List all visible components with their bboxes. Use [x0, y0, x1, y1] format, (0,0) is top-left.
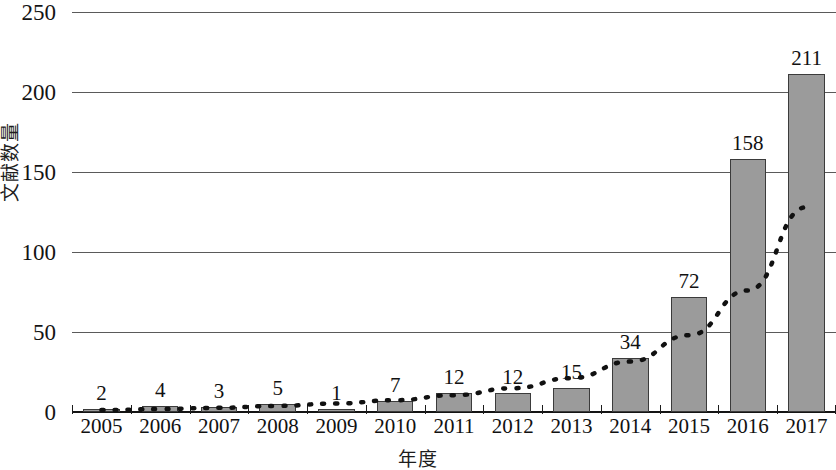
bar-value-label: 7 [366, 375, 425, 396]
bar-value-label: 3 [190, 381, 249, 402]
y-tick-label: 100 [0, 241, 56, 264]
bar-value-label: 211 [777, 48, 836, 69]
x-tick-label: 2010 [366, 416, 425, 437]
bar-value-label: 12 [483, 367, 542, 388]
x-tick-label: 2006 [131, 416, 190, 437]
x-tick-label: 2008 [248, 416, 307, 437]
plot-area: 2435171212153472158211 [72, 12, 836, 412]
bar-value-labels: 2435171212153472158211 [72, 12, 836, 412]
bar-value-label: 34 [601, 332, 660, 353]
x-tick-label: 2014 [601, 416, 660, 437]
x-axis-tick-labels: 2005200620072008200920102011201220132014… [72, 416, 836, 446]
bar-value-label: 72 [660, 271, 719, 292]
x-tick-label: 2015 [660, 416, 719, 437]
y-tick-label: 150 [0, 161, 56, 184]
bar-value-label: 15 [542, 362, 601, 383]
y-tick-label: 200 [0, 81, 56, 104]
x-tick-label: 2007 [190, 416, 249, 437]
y-tick-label: 250 [0, 1, 56, 24]
y-axis-tick-labels: 250200150100500 [0, 0, 56, 470]
bar-value-label: 12 [425, 367, 484, 388]
bar-value-label: 158 [718, 133, 777, 154]
y-tick-label: 50 [0, 321, 56, 344]
y-tick-label: 0 [0, 401, 56, 424]
x-tick-label: 2016 [718, 416, 777, 437]
x-tick-label: 2009 [307, 416, 366, 437]
bar-value-label: 1 [307, 383, 366, 404]
x-axis-title: 年度 [0, 444, 836, 470]
x-tick-label: 2013 [542, 416, 601, 437]
bar-value-label: 2 [72, 383, 131, 404]
x-tick-label: 2011 [425, 416, 484, 437]
bar-value-label: 4 [131, 380, 190, 401]
x-tick-label: 2005 [72, 416, 131, 437]
x-tick-label: 2017 [777, 416, 836, 437]
x-tick-label: 2012 [483, 416, 542, 437]
bar-value-label: 5 [248, 378, 307, 399]
bar-chart: 文献数量 250200150100500 2435171212153472158… [0, 0, 836, 470]
